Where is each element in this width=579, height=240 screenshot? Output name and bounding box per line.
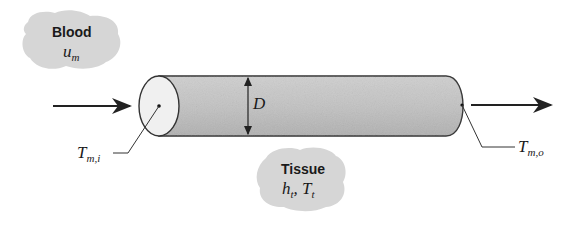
blood-velocity-label: um [63, 42, 79, 63]
diameter-label: D [253, 94, 265, 114]
outlet-temperature-label: Tm,o [518, 137, 544, 158]
inlet-temperature-label: Tm,i [77, 143, 100, 164]
tissue-label: Tissue [281, 161, 325, 177]
blood-label: Blood [52, 24, 92, 40]
outlet-leader-line [462, 105, 515, 147]
blood-vessel-cylinder [139, 76, 464, 136]
tissue-properties-label: ht, Tt [282, 179, 315, 200]
